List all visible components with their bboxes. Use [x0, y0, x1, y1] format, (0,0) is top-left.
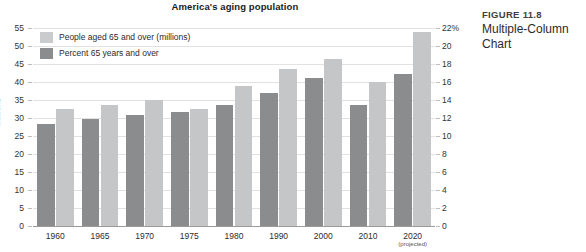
tick-mark	[28, 154, 32, 155]
y-axis-tick-left: 35	[6, 96, 24, 104]
bar	[56, 109, 74, 226]
y-axis-tick-right: 16	[442, 78, 466, 86]
y-axis-tick-left: 15	[6, 168, 24, 176]
tick-mark	[436, 190, 440, 191]
legend-label-percent: Percent 65 years and over	[59, 48, 159, 58]
x-axis-projected-note: (projected)	[390, 241, 435, 248]
bar	[37, 124, 55, 226]
y-axis-tick-right: 0	[442, 222, 466, 230]
x-axis-tick-label: 1960	[33, 231, 78, 241]
y-axis-tick-left: 20	[6, 150, 24, 158]
x-axis-tick-label: 1990	[256, 231, 301, 241]
chart-legend: People aged 65 and over (millions) Perce…	[40, 30, 190, 62]
bar	[394, 74, 412, 226]
chart-title: America's aging population	[0, 1, 470, 12]
bar	[82, 119, 100, 226]
tick-mark	[436, 100, 440, 101]
y-axis-tick-right: 14	[442, 96, 466, 104]
legend-label-millions: People aged 65 and over (millions)	[59, 32, 190, 42]
tick-mark	[28, 28, 32, 29]
bar	[190, 109, 208, 226]
figure-caption: FIGURE 11.8 Multiple-Column Chart	[482, 8, 586, 52]
legend-item-percent: Percent 65 years and over	[40, 46, 190, 60]
legend-swatch-icon-millions	[40, 32, 53, 43]
x-axis-tick-label: 2010	[346, 231, 391, 241]
tick-mark	[28, 190, 32, 191]
bar	[216, 105, 234, 226]
bar	[171, 112, 189, 226]
tick-mark	[28, 136, 32, 137]
y-axis-tick-left: 55	[6, 24, 24, 32]
bar	[324, 59, 342, 226]
y-axis-tick-right: 22%	[442, 24, 466, 32]
y-axis-tick-left: 10	[6, 186, 24, 194]
bar	[260, 93, 278, 226]
y-axis-tick-left: 25	[6, 132, 24, 140]
gridline	[33, 226, 435, 227]
y-axis-tick-left: 50	[6, 42, 24, 50]
tick-mark	[28, 226, 32, 227]
x-axis-tick-label: 1970	[122, 231, 167, 241]
tick-mark	[28, 118, 32, 119]
bar	[235, 86, 253, 226]
tick-mark	[436, 46, 440, 47]
tick-mark	[28, 100, 32, 101]
tick-mark	[436, 118, 440, 119]
legend-item-millions: People aged 65 and over (millions)	[40, 30, 190, 44]
chart-panel: America's aging population Millions 0052…	[0, 0, 478, 252]
y-axis-tick-right: 8	[442, 150, 466, 158]
tick-mark	[436, 154, 440, 155]
y-axis-tick-right: 6	[442, 168, 466, 176]
x-axis-tick-label: 2020(projected)	[390, 231, 435, 248]
tick-mark	[28, 82, 32, 83]
tick-mark	[436, 172, 440, 173]
y-axis-tick-left: 30	[6, 114, 24, 122]
y-axis-tick-left: 45	[6, 60, 24, 68]
tick-mark	[436, 136, 440, 137]
y-axis-tick-left: 0	[6, 222, 24, 230]
y-axis-title-left: Millions	[0, 98, 2, 126]
figure-page: America's aging population Millions 0052…	[0, 0, 586, 252]
y-axis-tick-right: 4	[442, 186, 466, 194]
figure-number: FIGURE 11.8	[482, 8, 586, 21]
bar	[279, 69, 297, 226]
bar	[369, 82, 387, 226]
bar	[305, 78, 323, 227]
x-axis-tick-label: 1980	[212, 231, 257, 241]
x-axis-tick-label: 2000	[301, 231, 346, 241]
legend-swatch-icon-percent	[40, 48, 53, 59]
bar	[126, 115, 144, 226]
tick-mark	[436, 28, 440, 29]
tick-mark	[436, 208, 440, 209]
tick-mark	[28, 208, 32, 209]
figure-title: Multiple-Column Chart	[482, 22, 586, 52]
tick-mark	[436, 64, 440, 65]
bar	[145, 100, 163, 226]
tick-mark	[28, 46, 32, 47]
y-axis-tick-right: 10	[442, 132, 466, 140]
y-axis-tick-right: 2	[442, 204, 466, 212]
bar	[413, 32, 431, 226]
bar	[101, 105, 119, 226]
gridline	[33, 28, 435, 29]
tick-mark	[28, 64, 32, 65]
y-axis-tick-right: 20	[442, 42, 466, 50]
gridline	[33, 64, 435, 65]
y-axis-tick-left: 5	[6, 204, 24, 212]
x-axis-tick-label: 1975	[167, 231, 212, 241]
x-axis-tick-label: 1965	[78, 231, 123, 241]
tick-mark	[28, 172, 32, 173]
y-axis-tick-left: 40	[6, 78, 24, 86]
y-axis-tick-right: 18	[442, 60, 466, 68]
tick-mark	[436, 226, 440, 227]
y-axis-tick-right: 12	[442, 114, 466, 122]
tick-mark	[436, 82, 440, 83]
bar	[350, 105, 368, 226]
